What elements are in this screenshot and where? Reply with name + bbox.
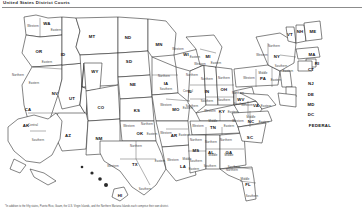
page-title: United States District Courts — [3, 0, 70, 5]
district-courts-map-page: United States District Courts — [0, 0, 364, 215]
footnote: *In addition to the fifty states, Puerto… — [5, 205, 355, 208]
us-map-svg — [0, 9, 364, 202]
title-divider — [2, 7, 362, 8]
state-outlines — [8, 15, 322, 201]
us-map — [0, 9, 364, 202]
